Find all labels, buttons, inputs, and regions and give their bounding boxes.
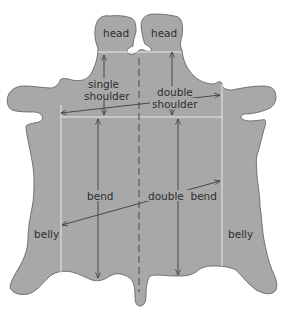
- label-double-bend: double bend: [148, 190, 217, 202]
- label-head-right: head: [151, 27, 177, 39]
- label-double-shoulder-1: double: [157, 86, 193, 98]
- hide-diagram: head head single shoulder double shoulde…: [0, 0, 287, 314]
- label-single-shoulder-2: shoulder: [84, 90, 130, 102]
- label-belly-right: belly: [228, 228, 253, 240]
- hide-outline: [7, 14, 277, 306]
- label-head-left: head: [103, 27, 129, 39]
- label-belly-left: belly: [34, 228, 59, 240]
- label-bend: bend: [87, 190, 113, 202]
- label-single-shoulder-1: single: [88, 78, 119, 90]
- label-double-shoulder-2: shoulder: [152, 98, 198, 110]
